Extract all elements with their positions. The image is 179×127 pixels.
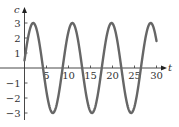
x-axis-label: t [168,62,173,73]
x-tick-label: 30 [150,70,163,81]
sine-chart: 51015202530 −3−2−1123 t c [0,0,179,127]
y-axis-label: c [14,4,20,15]
y-tick-label: 3 [14,18,20,29]
x-tick-label: 15 [84,70,97,81]
y-tick-label: −2 [6,93,21,104]
y-tick-label: −3 [6,108,21,119]
x-tick-label: 20 [106,70,119,81]
y-tick-label: 1 [14,48,20,59]
x-tick-label: 10 [62,70,75,81]
y-axis-arrow-icon [22,7,27,13]
y-tick-label: 2 [14,33,20,44]
y-tick-label: −1 [6,78,21,89]
